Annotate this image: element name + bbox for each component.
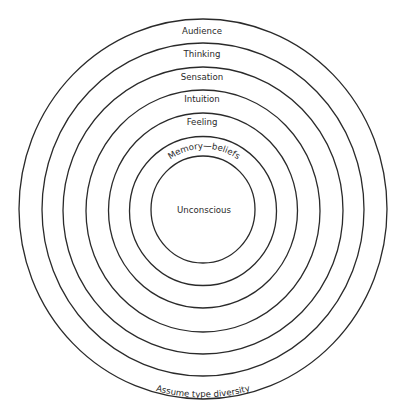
label-memory-beliefs: Memory—beliefs	[166, 141, 243, 162]
label-feeling: Feeling	[187, 117, 218, 127]
label-thinking: Thinking	[183, 49, 221, 59]
label-unconscious: Unconscious	[177, 205, 231, 215]
label-sensation: Sensation	[181, 72, 223, 82]
label-audience: Audience	[182, 26, 222, 36]
concentric-circles-diagram: Audience Thinking Sensation Intuition Fe…	[0, 0, 404, 415]
label-assume-type-diversity: Assume type diversity	[155, 383, 251, 399]
label-intuition: Intuition	[184, 94, 220, 104]
